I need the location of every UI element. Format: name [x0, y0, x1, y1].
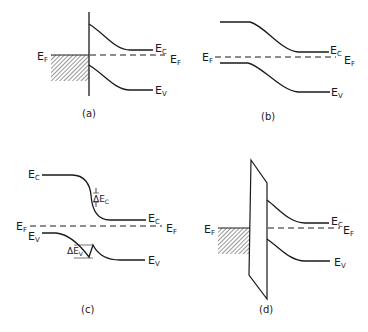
panel-d: EF EC EF EV (d): [204, 160, 354, 315]
conduction-band-edge: [89, 24, 153, 50]
panel-a-caption: (a): [82, 108, 96, 119]
ef-right-label: EF: [344, 54, 355, 68]
ef-right-label: EF: [170, 53, 181, 67]
valence-band-edge: [89, 65, 153, 90]
ev-label: EV: [155, 84, 167, 98]
oxide-barrier: [249, 160, 267, 299]
panel-a: EF EC EF EV (a): [37, 12, 181, 119]
metal-filled-states: [51, 55, 89, 81]
band-diagram-figure: EF EC EF EV (a) EF EC EF EV (b) EC ΔEC E…: [0, 0, 368, 332]
panel-c: EC ΔEC EC EF EF EV ΔEV EV (c): [16, 168, 177, 315]
panel-c-caption: (c): [81, 304, 94, 315]
valence-band-edge: [267, 239, 330, 261]
ef-right-label: EF: [343, 224, 354, 238]
valence-band-edge: [220, 63, 330, 92]
ev-label: EV: [331, 86, 343, 100]
valence-band-edge: [42, 233, 145, 260]
ec-label: EC: [331, 215, 343, 229]
panel-d-caption: (d): [259, 304, 273, 315]
delta-ec-label: ΔEC: [93, 194, 109, 205]
ev-right-label: EV: [148, 254, 160, 268]
panel-b: EF EC EF EV (b): [202, 22, 355, 122]
ef-right-label: EF: [166, 222, 177, 236]
panel-b-caption: (b): [261, 111, 275, 122]
ec-right-label: EC: [148, 212, 160, 226]
ef-left-label: EF: [37, 50, 48, 64]
metal-filled-states: [218, 228, 250, 254]
ef-left-label: EF: [202, 51, 213, 65]
conduction-band-edge: [220, 22, 329, 52]
ef-left-label: EF: [16, 220, 27, 234]
ef-left-label: EF: [204, 223, 215, 237]
ec-label: EC: [155, 42, 167, 56]
ec-left-label: EC: [28, 168, 40, 182]
ec-label: EC: [330, 44, 342, 58]
ev-left-label: EV: [28, 230, 40, 244]
conduction-band-edge: [267, 200, 329, 223]
ev-label: EV: [334, 256, 346, 270]
